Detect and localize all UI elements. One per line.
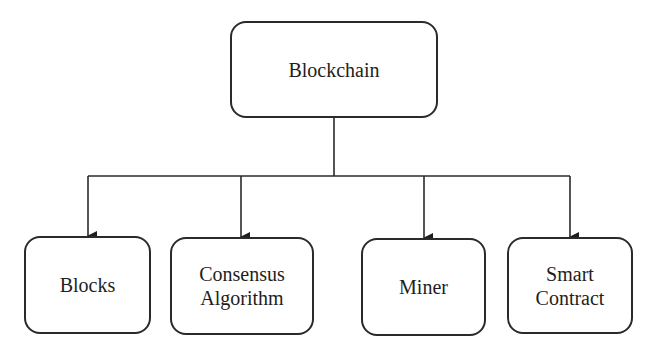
node-label: Blockchain <box>288 58 379 82</box>
node-label: Miner <box>399 275 448 299</box>
node-label: Blocks <box>60 273 116 297</box>
node-miner: Miner <box>361 238 486 336</box>
node-smart-contract: Smart Contract <box>507 237 633 334</box>
node-consensus-algorithm: Consensus Algorithm <box>170 237 314 335</box>
node-label: Smart Contract <box>536 262 605 310</box>
node-blockchain: Blockchain <box>230 21 438 118</box>
node-blocks: Blocks <box>24 236 151 334</box>
node-label: Consensus Algorithm <box>199 262 285 310</box>
